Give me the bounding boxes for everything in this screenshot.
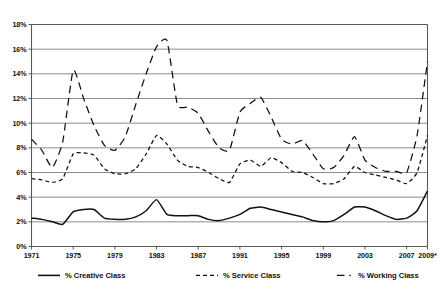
x-axis-label-1983: 1983 xyxy=(149,251,165,260)
y-axis-ticks: 0%2%4%6%8%10%12%14%16%18% xyxy=(12,20,31,251)
x-axis-label-1999: 1999 xyxy=(315,251,331,260)
y-axis-label-12: 12% xyxy=(12,94,27,103)
x-axis-label-2009: 2009* xyxy=(418,251,437,260)
legend-item-working-class: % Working Class xyxy=(337,271,419,280)
y-axis-label-6: 6% xyxy=(16,168,27,177)
x-axis-label-2007: 2007 xyxy=(399,251,415,260)
legend-label-creative-class: % Creative Class xyxy=(65,271,125,280)
x-axis-label-1979: 1979 xyxy=(107,251,123,260)
series-line-creative-class xyxy=(32,191,428,224)
y-axis-label-8: 8% xyxy=(16,143,27,152)
x-axis-label-1975: 1975 xyxy=(65,251,81,260)
legend-label-service-class: % Service Class xyxy=(223,271,281,280)
legend-item-service-class: % Service Class xyxy=(196,271,281,280)
y-axis-label-4: 4% xyxy=(16,193,27,202)
axis-lines xyxy=(32,25,428,247)
y-axis-label-10: 10% xyxy=(12,119,27,128)
chart-legend: % Creative Class% Service Class% Working… xyxy=(38,271,419,280)
y-axis-label-14: 14% xyxy=(12,69,27,78)
x-axis-label-2003: 2003 xyxy=(357,251,373,260)
grid-lines xyxy=(32,25,428,222)
legend-item-creative-class: % Creative Class xyxy=(38,271,125,280)
line-chart: 0%2%4%6%8%10%12%14%16%18% 19711975197919… xyxy=(0,0,448,293)
x-axis-label-1987: 1987 xyxy=(190,251,206,260)
series-line-service-class xyxy=(32,135,428,184)
y-axis-label-16: 16% xyxy=(12,45,27,54)
legend-label-working-class: % Working Class xyxy=(358,271,419,280)
data-series xyxy=(32,39,428,224)
x-axis-label-1995: 1995 xyxy=(274,251,290,260)
y-axis-label-2: 2% xyxy=(16,217,27,226)
x-axis-ticks: 1971197519791983198719911995199920032007… xyxy=(24,247,437,261)
chart-container: 0%2%4%6%8%10%12%14%16%18% 19711975197919… xyxy=(0,0,448,293)
y-axis-label-0: 0% xyxy=(16,242,27,251)
x-axis-label-1971: 1971 xyxy=(24,251,40,260)
x-axis-label-1991: 1991 xyxy=(232,251,248,260)
y-axis-label-18: 18% xyxy=(12,20,27,29)
